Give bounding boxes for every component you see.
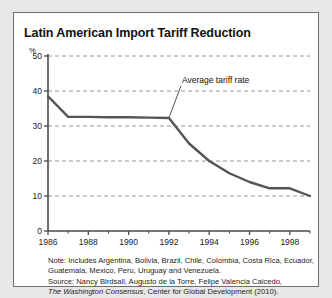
plot-area: % 01020304050 19861988199019921994199619… [14, 46, 320, 246]
footnote-line-2: Guatemala, Mexico, Peru, Uruguay and Ven… [48, 266, 316, 276]
annotation-average-tariff-rate: Average tariff rate [182, 75, 249, 85]
chart-figure-panel: Latin American Import Tariff Reduction %… [13, 12, 319, 287]
data-series-line [48, 96, 310, 196]
chart-title: Latin American Import Tariff Reduction [24, 26, 314, 40]
axis-lines [48, 54, 310, 231]
chart-canvas [14, 46, 320, 246]
footnote-line-4: The Washington Consensus, Center for Glo… [48, 287, 316, 297]
tick-marks [44, 56, 310, 235]
footnote-source-title: The Washington Consensus [48, 287, 143, 296]
gridlines [48, 56, 310, 196]
footnote-line-3: Source: Nancy Birdsall, Augusto de la To… [48, 277, 316, 287]
footnote-source-rest: , Center for Global Development (2010). [143, 287, 278, 296]
chart-footnote: Note: Includes Argentina, Bolivia, Brazi… [48, 256, 316, 297]
footnote-line-1: Note: Includes Argentina, Bolivia, Brazi… [48, 256, 316, 266]
